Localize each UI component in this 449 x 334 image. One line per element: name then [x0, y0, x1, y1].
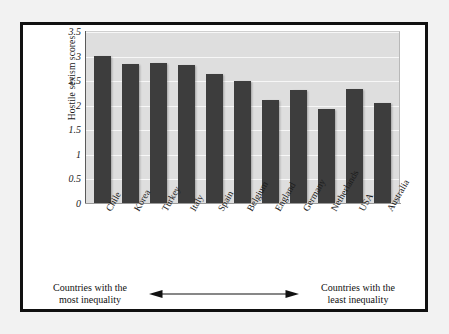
caption-left-line2: most inequality: [35, 294, 145, 307]
bar-belgium[interactable]: [234, 81, 251, 203]
y-tick-3: 3: [76, 50, 81, 61]
x-tick-slot: Chile: [88, 205, 116, 271]
x-tick-slot: Italy: [172, 205, 200, 271]
y-tick-0.5: 0.5: [69, 173, 82, 184]
bar-slot: [284, 32, 312, 203]
x-tick-slot: England: [257, 205, 285, 271]
x-axis-tick-labels: ChileKoreaTurkeyItalySpainBelgiumEngland…: [85, 205, 400, 271]
x-tick-slot: Australia: [369, 205, 397, 271]
x-tick-slot: Turkey: [144, 205, 172, 271]
bar-korea[interactable]: [122, 64, 139, 203]
bar-italy[interactable]: [178, 65, 195, 203]
x-axis-line: [85, 203, 401, 204]
y-tick-2.5: 2.5: [69, 75, 82, 86]
bar-spain[interactable]: [206, 74, 223, 203]
y-tick-1.5: 1.5: [69, 124, 82, 135]
bar-slot: [312, 32, 340, 203]
figure-page: Hostile sexism scores 00.511.522.533.5 C…: [0, 0, 449, 334]
bar-chile[interactable]: [94, 56, 111, 203]
x-tick-slot: Korea: [116, 205, 144, 271]
y-tick-2: 2: [76, 99, 81, 110]
bar-turkey[interactable]: [150, 63, 167, 203]
caption-right: Countries with the least inequality: [303, 282, 413, 307]
bar-slot: [144, 32, 172, 203]
bar-slot: [200, 32, 228, 203]
bar-slot: [88, 32, 116, 203]
bar-australia[interactable]: [374, 103, 391, 203]
y-axis-tick-labels: 00.511.522.533.5: [49, 31, 81, 203]
y-tick-1: 1: [76, 148, 81, 159]
y-axis-line: [85, 31, 86, 204]
caption-row: Countries with the most inequality Count…: [35, 277, 413, 311]
caption-right-line2: least inequality: [303, 294, 413, 307]
bar-slot: [228, 32, 256, 203]
x-tick-slot: Netherlands: [313, 205, 341, 271]
x-tick-slot: Belgium: [228, 205, 256, 271]
x-tick-slot: Spain: [200, 205, 228, 271]
bar-slot: [368, 32, 396, 203]
caption-right-line1: Countries with the: [303, 282, 413, 295]
bar-slot: [116, 32, 144, 203]
y-tick-3.5: 3.5: [69, 26, 82, 37]
figure-frame: Hostile sexism scores 00.511.522.533.5 C…: [20, 22, 428, 312]
bar-slot: [256, 32, 284, 203]
caption-left-line1: Countries with the: [35, 282, 145, 295]
caption-left: Countries with the most inequality: [35, 282, 145, 307]
bar-chart: Hostile sexism scores 00.511.522.533.5 C…: [23, 25, 425, 309]
y-tick-0: 0: [76, 198, 81, 209]
bar-slot: [172, 32, 200, 203]
x-tick-slot: USA: [341, 205, 369, 271]
double-arrow-icon: [149, 288, 299, 300]
x-tick-slot: Germany: [285, 205, 313, 271]
